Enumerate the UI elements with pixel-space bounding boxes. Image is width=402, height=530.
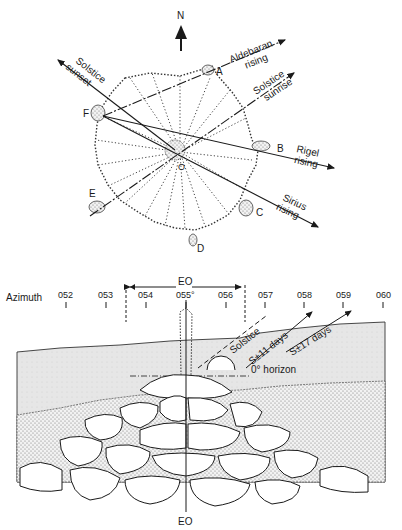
svg-text:058: 058 [297,290,312,300]
svg-text:052: 052 [58,290,73,300]
svg-text:053: 053 [98,290,113,300]
diagram-canvas: N O [0,0,402,530]
elevation-view: EO Azimuth 052 053 054 055° 056 057 058 … [6,276,391,527]
label-solstice-sunset: Solstice sunset [64,52,109,94]
stone-label-b: B [277,143,284,154]
stone-c [239,200,253,216]
eo-bottom-label: EO [178,516,193,527]
stone-label-f: F [83,108,89,119]
label-aldebaran-rising: Aldebaran rising [228,38,279,75]
eo-top-label: EO [178,276,193,287]
stone-f [91,105,105,121]
north-label: N [177,10,184,21]
stone-label-d: D [197,243,204,254]
plan-view: N O [58,10,334,254]
stone-label-c: C [256,207,263,218]
svg-text:054: 054 [138,290,153,300]
center-label: O [178,162,185,172]
label-solstice-sunrise: Solstice sunrise [251,66,295,105]
stone-d [189,234,197,246]
svg-text:056: 056 [218,290,233,300]
stone-b [252,141,270,151]
label-sirius-rising: Sirius rising [275,191,309,222]
north-arrow-icon: N [177,10,184,51]
stone-label-a: A [216,66,223,77]
svg-text:055°: 055° [176,290,195,300]
azimuth-ticks: 052 053 054 055° 056 057 058 059 060 [58,290,391,308]
label-rigel-rising: Rigel rising [293,143,321,169]
svg-text:060: 060 [376,290,391,300]
svg-text:059: 059 [336,290,351,300]
svg-text:057: 057 [258,290,273,300]
azimuth-label: Azimuth [6,292,42,303]
horizon-label: 0° horizon [251,364,296,375]
stone-label-e: E [89,188,96,199]
